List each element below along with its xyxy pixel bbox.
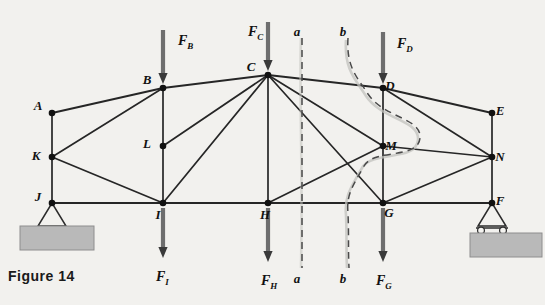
joint-E [489, 110, 496, 117]
node-label-M: M [384, 138, 397, 153]
node-label-C: C [247, 59, 256, 74]
node-label-I: I [154, 207, 161, 222]
node-label-A: A [33, 98, 43, 113]
section-label-a-bottom: a [294, 271, 301, 286]
node-label-H: H [259, 207, 271, 222]
joint-A [49, 110, 56, 117]
section-label-a-top: a [294, 24, 301, 39]
section-label-b-bottom: b [340, 271, 347, 286]
node-label-B: B [142, 72, 152, 87]
joint-F [489, 200, 496, 207]
joint-J [49, 200, 56, 207]
node-label-J: J [34, 189, 42, 204]
joint-N [489, 154, 496, 161]
node-label-F: F [495, 193, 505, 208]
section-label-b-top: b [340, 24, 347, 39]
truss-figure: ABCDEFGHIJKLMN FBFCFDFIFHFG aabb [0, 0, 545, 305]
joint-I [160, 200, 167, 207]
node-label-K: K [31, 148, 42, 163]
figure-caption: Figure 14 [8, 268, 75, 284]
node-label-E: E [495, 103, 505, 118]
node-label-D: D [384, 78, 395, 93]
node-label-G: G [384, 205, 394, 220]
node-label-N: N [494, 149, 505, 164]
section-line-a [300, 38, 302, 268]
figure-background [0, 0, 545, 305]
joint-B [160, 85, 167, 92]
joint-L [160, 143, 167, 150]
joint-C [265, 72, 272, 79]
joint-H [265, 200, 272, 207]
node-label-L: L [142, 136, 151, 151]
joint-K [49, 154, 56, 161]
